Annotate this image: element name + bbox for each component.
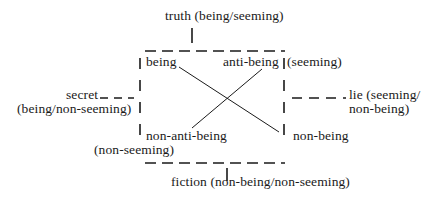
non-seeming-note: (non-seeming)	[94, 143, 174, 157]
anti-being-label: anti-being	[223, 55, 279, 69]
semiotic-square-diagram: truth (being/seeming) being anti-being (…	[0, 0, 441, 208]
truth-label: truth (being/seeming)	[165, 9, 284, 23]
secret-sublabel: (being/non-seeming)	[17, 102, 131, 116]
lie-sublabel: non-being)	[349, 102, 409, 116]
non-being-label: non-being	[293, 129, 349, 143]
being-label: being	[146, 55, 177, 69]
fiction-label: fiction (non-being/non-seeming)	[171, 175, 350, 189]
secret-label: secret	[66, 88, 98, 102]
non-anti-being-label: non-anti-being	[146, 129, 227, 143]
lie-label: lie (seeming/	[349, 88, 420, 102]
diagonal-anti-being-to-non-anti-being	[192, 69, 262, 128]
diagonal-being-to-non-being	[179, 67, 279, 132]
seeming-note: (seeming)	[287, 55, 342, 69]
